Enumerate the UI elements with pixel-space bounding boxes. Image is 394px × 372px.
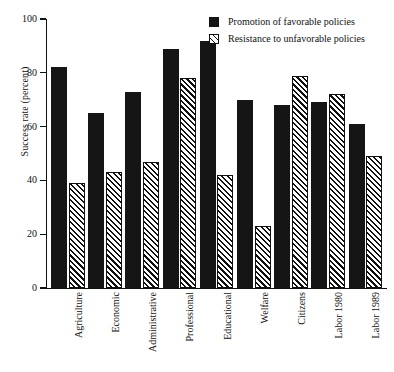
bar-chart: Success rate (percent) 020406080100 Agri… bbox=[0, 0, 394, 372]
x-axis-label-labor-1989: Labor 1989 bbox=[370, 292, 381, 338]
chart-legend: Promotion of favorable policies Resistan… bbox=[209, 14, 365, 48]
y-axis-tick-label: 80 bbox=[7, 68, 37, 78]
y-axis-title: Success rate (percent) bbox=[19, 42, 30, 182]
bar-citizens-resistance bbox=[292, 76, 308, 289]
y-axis-tick-label: 60 bbox=[7, 122, 37, 132]
bar-citizens-promotion bbox=[274, 105, 290, 288]
x-axis-line bbox=[46, 288, 387, 289]
legend-label-resistance: Resistance to unfavorable policies bbox=[228, 33, 365, 44]
y-axis-tick bbox=[40, 18, 46, 19]
y-axis-tick bbox=[40, 126, 46, 127]
bar-labor-1989-promotion bbox=[349, 124, 365, 288]
bars-layer bbox=[47, 19, 386, 288]
bar-economic-resistance bbox=[106, 172, 122, 288]
bar-administrative-resistance bbox=[143, 162, 159, 288]
bar-professional-promotion bbox=[163, 49, 179, 288]
filled-square-icon bbox=[209, 17, 219, 27]
x-axis-label-educational: Educational bbox=[222, 292, 233, 340]
x-axis-label-professional: Professional bbox=[184, 292, 195, 341]
y-axis-tick-label: 0 bbox=[7, 283, 37, 293]
x-axis-label-labor-1980: Labor 1980 bbox=[333, 292, 344, 338]
bar-economic-promotion bbox=[88, 113, 104, 288]
x-axis-label-economic: Economic bbox=[110, 292, 121, 333]
y-axis-tick bbox=[40, 180, 46, 181]
x-axis-label-agriculture: Agriculture bbox=[73, 292, 84, 338]
legend-label-promotion: Promotion of favorable policies bbox=[228, 16, 355, 27]
x-axis-label-welfare: Welfare bbox=[259, 292, 270, 323]
y-axis-tick-label: 20 bbox=[7, 229, 37, 239]
bar-professional-resistance bbox=[180, 78, 196, 288]
bar-agriculture-promotion bbox=[51, 67, 67, 288]
bar-labor-1989-resistance bbox=[366, 156, 382, 288]
x-axis-label-citizens: Citizens bbox=[296, 292, 307, 325]
bar-welfare-resistance bbox=[255, 226, 271, 288]
bar-educational-promotion bbox=[200, 41, 216, 288]
hatched-square-icon bbox=[209, 34, 219, 44]
legend-item-resistance: Resistance to unfavorable policies bbox=[209, 31, 365, 46]
y-axis-tick bbox=[40, 287, 46, 288]
bar-labor-1980-resistance bbox=[329, 94, 345, 288]
y-axis-tick-label: 100 bbox=[7, 14, 37, 24]
bar-educational-resistance bbox=[217, 175, 233, 288]
x-axis-label-administrative: Administrative bbox=[147, 292, 158, 352]
y-axis-tick-label: 40 bbox=[7, 175, 37, 185]
legend-item-promotion: Promotion of favorable policies bbox=[209, 14, 365, 29]
bar-welfare-promotion bbox=[237, 100, 253, 288]
y-axis-tick bbox=[40, 72, 46, 73]
bar-agriculture-resistance bbox=[69, 183, 85, 288]
bar-labor-1980-promotion bbox=[311, 102, 327, 288]
bar-administrative-promotion bbox=[125, 92, 141, 288]
y-axis-tick bbox=[40, 234, 46, 235]
